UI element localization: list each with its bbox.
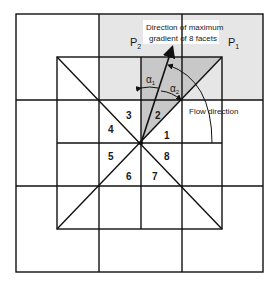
facet-7-label: 7: [152, 171, 158, 182]
title-line-1: Direction of maximum: [146, 23, 224, 32]
facet-3-label: 3: [126, 110, 132, 121]
facet-8-label: 8: [164, 151, 170, 162]
facet-1-label: 1: [164, 130, 170, 141]
facet-flow-diagram: Direction of maximum gradient of 8 facet…: [0, 0, 279, 291]
facet-2-label: 2: [155, 110, 161, 121]
facet-6-label: 6: [126, 171, 132, 182]
facet-4-label: 4: [108, 124, 114, 135]
facet-5-label: 5: [108, 151, 114, 162]
flow-direction-label: Flow direction: [189, 107, 238, 116]
title-line-2: gradient of 8 facets: [149, 34, 217, 43]
